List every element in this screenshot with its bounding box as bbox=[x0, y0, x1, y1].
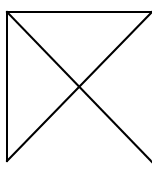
diagram-canvas bbox=[0, 0, 152, 175]
crossed-box-diagram bbox=[0, 0, 152, 175]
